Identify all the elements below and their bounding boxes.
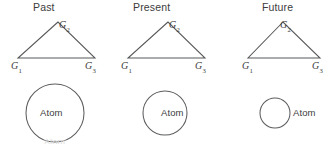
atom-circle-shape-future (260, 98, 290, 128)
vertex-label-g2-past: G2 (59, 19, 70, 30)
vertex-label-g1-present: G1 (121, 60, 132, 71)
vertex-subscript: 3 (319, 67, 322, 74)
triangle-future (220, 12, 330, 64)
vertex-subscript: 2 (176, 26, 179, 33)
vertex-label-g1-future: G1 (242, 60, 253, 71)
vertex-label-g3-future: G3 (312, 60, 323, 71)
atom-label-future: Atom (293, 107, 316, 118)
vertex-label-g3-past: G3 (85, 60, 96, 71)
atom-evolution-diagram: Past G2 G1 G3 Atom Present G2 G1 G3 Atom… (0, 0, 332, 144)
vertex-label-g1-past: G1 (11, 60, 22, 71)
panel-present: Present G2 G1 G3 Atom (110, 0, 220, 144)
vertex-subscript: 2 (66, 26, 69, 33)
vertex-subscript: 3 (202, 67, 205, 74)
triangle-shape-past (18, 22, 95, 58)
vertex-label-g2-future: G2 (280, 19, 291, 30)
panel-future: Future G2 G1 G3 Atom (220, 0, 330, 144)
atom-label-present: Atom (161, 107, 184, 118)
vertex-label-g2-present: G2 (169, 19, 180, 30)
vertex-subscript: 3 (92, 67, 95, 74)
atom-label-past: Atom (40, 107, 63, 118)
triangle-past (0, 12, 110, 64)
vertex-subscript: 1 (128, 67, 131, 74)
triangle-shape-present (128, 22, 205, 58)
vertex-subscript: 2 (287, 26, 290, 33)
vertex-subscript: 1 (249, 67, 252, 74)
panel-past: Past G2 G1 G3 Atom (0, 0, 110, 144)
clipped-bottom-artifact: Atom (44, 137, 65, 144)
triangle-present (110, 12, 220, 64)
vertex-label-g3-present: G3 (195, 60, 206, 71)
vertex-subscript: 1 (18, 67, 21, 74)
